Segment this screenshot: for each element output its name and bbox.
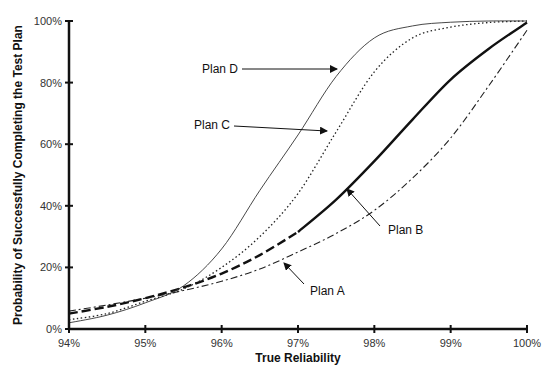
y-tick-label: 0% — [46, 323, 62, 335]
y-tick-label: 80% — [40, 77, 62, 89]
y-tick-label: 60% — [40, 138, 62, 150]
x-tick-label: 94% — [58, 337, 80, 349]
x-axis-title: True Reliability — [255, 351, 341, 365]
x-tick-label: 98% — [363, 337, 385, 349]
x-tick-label: 96% — [211, 337, 233, 349]
annotations: Plan DPlan CPlan BPlan A — [194, 62, 423, 298]
y-axis-title: Probability of Successfully Completing t… — [11, 25, 25, 325]
x-tick-label: 97% — [287, 337, 309, 349]
reliability-chart: 94%95%96%97%98%99%100% 0%20%40%60%80%100… — [0, 0, 554, 383]
series-line-plan-b-lower — [69, 232, 298, 314]
annotation-label-plan-c: Plan C — [194, 118, 230, 132]
x-tick-label: 95% — [134, 337, 156, 349]
annotation-arrow-plan-b — [347, 189, 380, 226]
y-tick-label: 20% — [40, 261, 62, 273]
annotation-label-plan-a: Plan A — [310, 284, 345, 298]
y-tick-label: 100% — [34, 15, 62, 27]
annotation-arrow-plan-c — [234, 126, 327, 131]
x-tick-label: 99% — [440, 337, 462, 349]
y-tick-label: 40% — [40, 200, 62, 212]
annotation-label-plan-b: Plan B — [388, 223, 423, 237]
annotation-label-plan-d: Plan D — [202, 62, 238, 76]
series-line-plan-b — [298, 23, 527, 232]
x-tick-label: 100% — [513, 337, 541, 349]
y-ticks: 0%20%40%60%80%100% — [34, 15, 73, 335]
annotation-arrow-plan-a — [284, 263, 304, 284]
series-line-plan-c — [69, 21, 527, 320]
